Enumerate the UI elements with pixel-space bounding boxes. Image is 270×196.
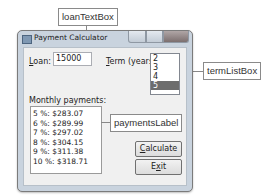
term-listbox[interactable]: 2 3 4 5: [150, 53, 180, 95]
app-icon: [22, 35, 32, 44]
payment-row: 7 %: $297.02: [33, 128, 99, 138]
term-option-2[interactable]: 2: [151, 54, 179, 63]
payment-row: 6 %: $289.99: [33, 119, 99, 129]
window-title: Payment Calculator: [34, 33, 107, 42]
title-bar: Payment Calculator: [18, 31, 192, 46]
close-button[interactable]: [163, 31, 189, 43]
payments-label: 5 %: $283.07 6 %: $289.99 7 %: $297.02 8…: [30, 106, 102, 174]
monthly-payments-label: Monthly payments:: [29, 96, 106, 105]
loan-textbox-callout: loanTextBox: [58, 8, 118, 26]
maximize-button[interactable]: [146, 31, 163, 43]
minimize-button[interactable]: [128, 31, 146, 43]
payment-row: 8 %: $304.15: [33, 138, 99, 148]
payment-row: 10 %: $318.71: [33, 157, 99, 167]
calculate-button[interactable]: Calculate: [135, 141, 182, 157]
term-option-3[interactable]: 3: [151, 63, 179, 72]
payment-calculator-window: Payment Calculator Loan: 15000 Term (yea…: [17, 30, 193, 192]
loan-textbox[interactable]: 15000: [53, 52, 92, 66]
loan-label: Loan:: [29, 57, 51, 66]
term-option-5-selected[interactable]: 5: [151, 81, 179, 90]
payment-row: 9 %: $311.38: [33, 147, 99, 157]
window-controls: [128, 31, 189, 43]
payments-label-callout: paymentsLabel: [110, 114, 182, 132]
term-listbox-callout: termListBox: [203, 62, 261, 80]
term-option-4[interactable]: 4: [151, 72, 179, 81]
exit-button[interactable]: Exit: [135, 159, 182, 175]
payment-row: 5 %: $283.07: [33, 109, 99, 119]
